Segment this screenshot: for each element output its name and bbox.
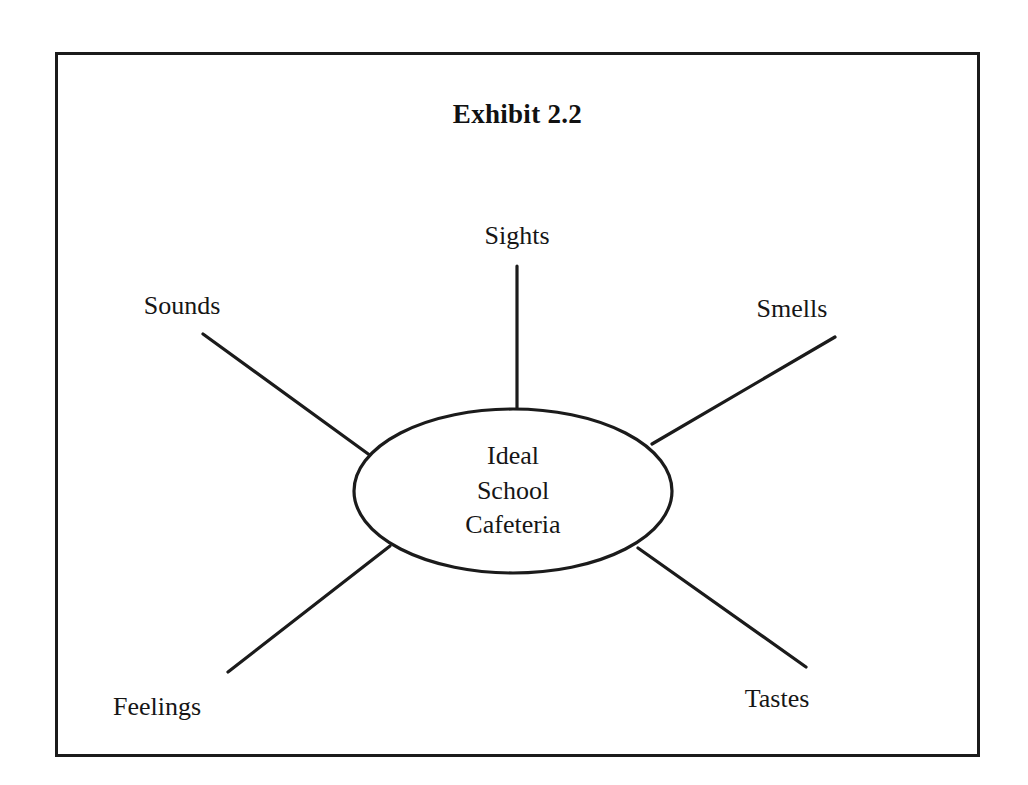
- node-label-tastes: Tastes: [745, 686, 810, 712]
- center-line-2: School: [477, 474, 549, 509]
- center-line-3: Cafeteria: [465, 508, 560, 543]
- exhibit-title: Exhibit 2.2: [55, 100, 980, 130]
- exhibit-figure: Exhibit 2.2 Ideal School Cafeteria Sight…: [0, 0, 1028, 785]
- node-label-sounds: Sounds: [144, 293, 221, 319]
- node-label-sights: Sights: [484, 223, 549, 249]
- center-line-1: Ideal: [487, 439, 539, 474]
- center-node-text: Ideal School Cafeteria: [354, 409, 672, 573]
- node-label-smells: Smells: [757, 296, 828, 322]
- node-label-feelings: Feelings: [113, 694, 201, 720]
